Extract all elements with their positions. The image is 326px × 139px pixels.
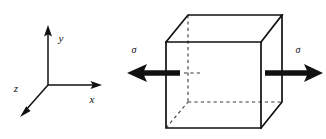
cube-front-face bbox=[166, 42, 261, 128]
stress-label-left: σ bbox=[132, 44, 138, 55]
z-axis-line bbox=[25, 85, 48, 111]
y-axis-label: y bbox=[58, 32, 64, 44]
stress-element-figure: x y z σ bbox=[0, 0, 326, 139]
stress-element-cube bbox=[166, 15, 282, 128]
x-axis-label: x bbox=[89, 93, 95, 105]
z-axis-arrowhead bbox=[20, 106, 31, 117]
z-axis-label: z bbox=[13, 82, 19, 94]
coordinate-axes: x y z bbox=[13, 25, 102, 117]
stress-label-right: σ bbox=[296, 44, 302, 55]
figure-canvas: x y z σ bbox=[0, 0, 326, 139]
